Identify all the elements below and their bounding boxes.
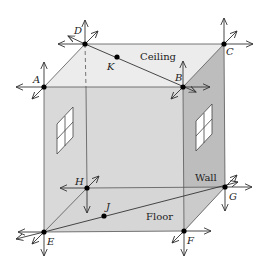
- point-A: [41, 84, 46, 89]
- label-J: J: [104, 201, 111, 212]
- point-K: [114, 54, 119, 59]
- point-J: [101, 213, 106, 218]
- cube-diagram: A B C D E F G H K J Ceiling Wall Floor: [0, 0, 273, 268]
- line-DB-back: [68, 36, 85, 44]
- label-A: A: [32, 74, 40, 85]
- point-G: [222, 184, 227, 189]
- label-D: D: [73, 25, 82, 36]
- label-G: G: [229, 191, 237, 202]
- label-F: F: [186, 235, 195, 246]
- point-H: [84, 185, 89, 190]
- point-B: [180, 84, 185, 89]
- label-K: K: [106, 61, 115, 72]
- point-E: [41, 229, 46, 234]
- point-F: [181, 228, 186, 233]
- label-C: C: [226, 46, 234, 57]
- label-B: B: [174, 72, 182, 83]
- label-E: E: [46, 236, 55, 247]
- line-EG-back: [16, 232, 44, 239]
- label-H: H: [74, 176, 84, 187]
- label-wall: Wall: [195, 172, 217, 183]
- label-floor: Floor: [146, 211, 173, 222]
- point-D: [82, 41, 87, 46]
- label-ceiling: Ceiling: [140, 51, 177, 62]
